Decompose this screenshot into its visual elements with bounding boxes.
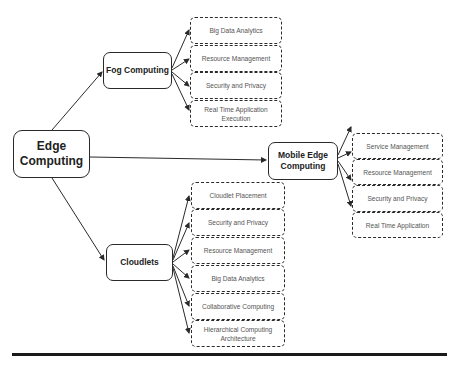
- mec-leaf-security-privacy: Security and Privacy: [352, 185, 443, 212]
- leaf-label: Big Data Analytics: [211, 274, 264, 283]
- cloudlet-leaf-big-data-analytics: Big Data Analytics: [191, 265, 285, 292]
- fog-leaf-resource-management: Resource Management: [190, 45, 282, 72]
- edge-computing-label: Edge Computing: [14, 139, 89, 169]
- mobile-edge-computing-label: Mobile Edge Computing: [269, 150, 337, 172]
- mobile-edge-computing-node: Mobile Edge Computing: [268, 142, 338, 180]
- leaf-label: Resource Management: [363, 168, 432, 177]
- leaf-label: Resource Management: [202, 54, 271, 63]
- cloudlet-leaf-resource-management: Resource Management: [191, 237, 285, 264]
- leaf-label: Collaborative Computing: [202, 302, 274, 311]
- bottom-divider: [12, 353, 447, 356]
- diagram-canvas: Edge Computing Fog Computing Big Data An…: [0, 0, 460, 365]
- leaf-label: Security and Privacy: [367, 194, 427, 203]
- fog-leaf-real-time-app-execution: Real Time Application Execution: [190, 100, 282, 127]
- leaf-label: Big Data Analytics: [209, 26, 262, 35]
- fog-leaf-security-privacy: Security and Privacy: [190, 72, 282, 99]
- fog-leaf-big-data-analytics: Big Data Analytics: [190, 17, 282, 44]
- mec-leaf-resource-management: Resource Management: [352, 159, 443, 185]
- leaf-label: Security and Privacy: [208, 218, 268, 227]
- edge-computing-node: Edge Computing: [13, 130, 90, 178]
- cloudlets-label: Cloudlets: [120, 257, 159, 268]
- leaf-label: Cloudlet Placement: [209, 191, 266, 200]
- mec-leaf-service-management: Service Management: [352, 133, 443, 159]
- leaf-label: Service Management: [366, 142, 428, 151]
- cloudlet-leaf-security-privacy: Security and Privacy: [191, 209, 285, 236]
- leaf-label: Security and Privacy: [206, 81, 266, 90]
- cloudlet-leaf-collaborative-computing: Collaborative Computing: [191, 293, 285, 320]
- cloudlet-leaf-placement: Cloudlet Placement: [191, 182, 285, 209]
- leaf-label: Real Time Application: [366, 221, 429, 230]
- leaf-label: Resource Management: [204, 246, 273, 255]
- cloudlet-leaf-hierarchical-architecture: Hierarchical Computing Architecture: [191, 320, 285, 347]
- leaf-label: Real Time Application Execution: [195, 105, 277, 123]
- cloudlets-node: Cloudlets: [106, 244, 173, 281]
- leaf-label: Hierarchical Computing Architecture: [196, 325, 280, 343]
- fog-computing-node: Fog Computing: [103, 52, 172, 89]
- mec-leaf-real-time-application: Real Time Application: [352, 212, 443, 238]
- fog-computing-label: Fog Computing: [106, 65, 169, 76]
